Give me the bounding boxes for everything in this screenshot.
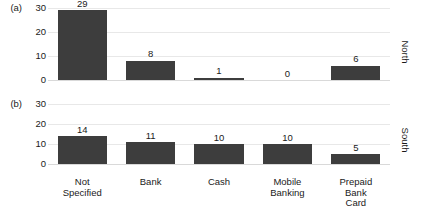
y-tick-label: 10 (24, 139, 46, 149)
gridline-baseline (48, 80, 390, 81)
y-tick-label: 30 (24, 99, 46, 109)
bar (58, 10, 107, 80)
y-axis-north: (a) 30 20 10 0 (0, 8, 48, 96)
bar (126, 142, 175, 164)
bar-value-label: 0 (253, 69, 321, 79)
panel-tag-a: (a) (10, 3, 22, 13)
side-label-south: South (400, 128, 410, 153)
x-label-line: Cash (185, 177, 253, 188)
bar-value-label: 14 (48, 125, 116, 135)
bar (126, 61, 175, 80)
bar (58, 136, 107, 164)
x-label-line: Specified (48, 188, 116, 199)
x-axis-category-labels: Not Specified Bank Cash Mobile Banking P… (48, 177, 390, 210)
bar (331, 154, 380, 164)
x-label-line: Mobile (253, 177, 321, 188)
side-label-south-wrap: South (393, 104, 417, 176)
gridline-baseline (48, 164, 390, 165)
bar-group-north: 29 8 1 0 6 (48, 8, 390, 80)
bar-slot: 14 (48, 104, 116, 164)
bar (263, 144, 312, 164)
x-label-line: Card (322, 198, 390, 209)
x-tick-label-cash: Cash (185, 177, 253, 210)
bar-slot: 5 (322, 104, 390, 164)
bar-value-label: 29 (48, 0, 116, 8)
bar-value-label: 6 (322, 54, 390, 64)
plot-area-north: 29 8 1 0 6 (48, 8, 390, 80)
bar-slot: 0 (253, 8, 321, 80)
x-label-line: Bank (116, 177, 184, 188)
bar-slot: 6 (322, 8, 390, 80)
y-tick-label: 0 (24, 159, 46, 169)
y-tick-label: 20 (24, 119, 46, 129)
y-tick-label: 30 (24, 3, 46, 13)
bar-slot: 1 (185, 8, 253, 80)
plot-area-south: 14 11 10 10 5 (48, 104, 390, 164)
bar-value-label: 8 (116, 49, 184, 59)
x-tick-label-prepaid-bank-card: Prepaid Bank Card (322, 177, 390, 210)
bar-value-label: 5 (322, 143, 390, 153)
bar-value-label: 11 (116, 131, 184, 141)
bar-value-label: 10 (253, 133, 321, 143)
x-label-line: Prepaid (322, 177, 390, 188)
bar-slot: 11 (116, 104, 184, 164)
bar (194, 144, 243, 164)
y-tick-label: 20 (24, 27, 46, 37)
panel-north: (a) 30 20 10 0 29 8 1 (0, 8, 423, 96)
x-tick-label-bank: Bank (116, 177, 184, 210)
bar-slot: 29 (48, 8, 116, 80)
bar (194, 78, 243, 80)
panel-south: (b) 30 20 10 0 14 11 10 (0, 104, 423, 176)
side-label-north-wrap: North (393, 8, 417, 96)
y-tick-label: 0 (24, 75, 46, 85)
bar-value-label: 1 (185, 66, 253, 76)
bar-group-south: 14 11 10 10 5 (48, 104, 390, 164)
bar-slot: 10 (185, 104, 253, 164)
x-tick-label-not-specified: Not Specified (48, 177, 116, 210)
bar-slot: 10 (253, 104, 321, 164)
bar-slot: 8 (116, 8, 184, 80)
y-tick-label: 10 (24, 51, 46, 61)
x-label-line: Banking (253, 188, 321, 199)
panel-tag-b: (b) (10, 99, 22, 109)
bar (331, 66, 380, 80)
bar-value-label: 10 (185, 133, 253, 143)
side-label-north: North (400, 40, 410, 63)
y-axis-south: (b) 30 20 10 0 (0, 104, 48, 176)
x-tick-label-mobile-banking: Mobile Banking (253, 177, 321, 210)
bar-chart-figure: (a) 30 20 10 0 29 8 1 (0, 0, 423, 210)
x-label-line: Not (48, 177, 116, 188)
